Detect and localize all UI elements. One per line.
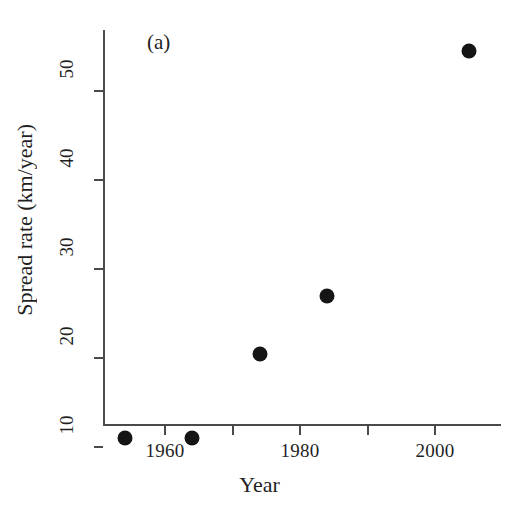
y-axis-line	[103, 30, 105, 426]
y-tick-10	[94, 446, 103, 448]
y-tick-label-10: 10	[56, 416, 78, 435]
x-tick-2000	[434, 426, 436, 435]
y-axis-title: Spread rate (km/year)	[8, 60, 42, 380]
y-tick-40	[94, 179, 103, 181]
y-tick-label-50: 50	[56, 60, 78, 79]
x-tick-label-1980: 1980	[281, 440, 320, 462]
x-tick-label-2000: 2000	[416, 440, 455, 462]
x-tick-1970	[232, 426, 234, 435]
y-tick-50	[94, 90, 103, 92]
scatter-plot-figure: (a) 196019802000 1020304050 Year Spread …	[0, 0, 519, 512]
y-tick-30	[94, 268, 103, 270]
data-point	[185, 431, 200, 446]
data-point	[461, 43, 476, 58]
y-tick-label-40: 40	[56, 149, 78, 168]
x-tick-1980	[299, 426, 301, 435]
data-point	[252, 346, 267, 361]
data-point	[117, 431, 132, 446]
data-point	[320, 288, 335, 303]
x-tick-1960	[164, 426, 166, 435]
panel-label: (a)	[147, 30, 170, 55]
y-tick-20	[94, 357, 103, 359]
x-axis-title: Year	[0, 472, 519, 498]
y-axis-title-text: Spread rate (km/year)	[12, 124, 38, 316]
y-tick-label-20: 20	[56, 327, 78, 346]
y-tick-label-30: 30	[56, 238, 78, 257]
x-tick-1990	[367, 426, 369, 435]
x-axis-line	[103, 424, 501, 426]
x-tick-label-1960: 1960	[146, 440, 185, 462]
